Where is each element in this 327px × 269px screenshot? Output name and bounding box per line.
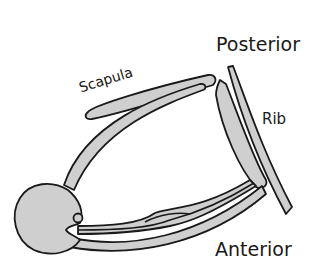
small-circle — [74, 214, 83, 223]
shoulder-anatomy-diagram: Posterior Scapula Rib Anterior — [0, 0, 327, 269]
label-anterior: Anterior — [215, 238, 292, 260]
humeral-head — [15, 184, 82, 254]
muscle-bundle — [78, 180, 256, 234]
label-posterior: Posterior — [216, 33, 300, 55]
label-rib: Rib — [262, 110, 286, 128]
